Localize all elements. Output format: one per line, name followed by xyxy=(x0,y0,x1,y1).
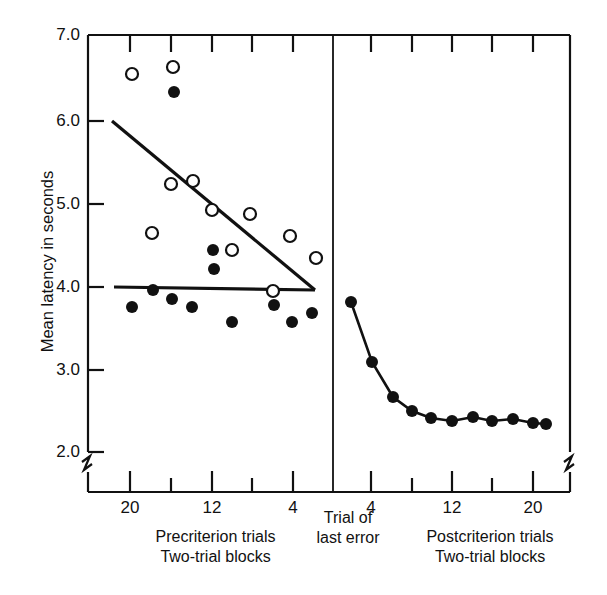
filled-circle-point xyxy=(147,284,159,296)
open-circle-point xyxy=(126,68,138,80)
open-circle-series xyxy=(126,61,322,297)
open-circle-point xyxy=(267,285,279,297)
open-circle-point xyxy=(310,252,322,264)
open-circle-point xyxy=(146,227,158,239)
open-circle-point xyxy=(165,178,177,190)
y-tick-label-7: 7.0 xyxy=(20,25,80,45)
open-circle-point xyxy=(167,61,179,73)
top-axis-ticks xyxy=(130,35,533,52)
caption-divider-line1: Trial of xyxy=(298,508,398,528)
caption-divider-line2: last error xyxy=(298,528,398,548)
filled-circle-series xyxy=(126,86,318,328)
filled-circle-point xyxy=(286,316,298,328)
filled-circle-point xyxy=(166,293,178,305)
open-circle-point xyxy=(187,175,199,187)
postcriterion-point xyxy=(425,412,437,424)
caption-trial-of-last-error: Trial of last error xyxy=(298,508,398,549)
caption-precriterion-line2: Two-trial blocks xyxy=(118,547,313,567)
postcriterion-point xyxy=(467,411,479,423)
y-tick-label-5: 5.0 xyxy=(20,194,80,214)
postcriterion-point xyxy=(486,415,498,427)
postcriterion-point xyxy=(527,417,539,429)
filled-circle-point xyxy=(226,316,238,328)
y-tick-label-4: 4.0 xyxy=(20,277,80,297)
open-circle-point xyxy=(206,204,218,216)
x-tick-label-right-12: 12 xyxy=(428,498,476,518)
x-tick-label-left-12: 12 xyxy=(188,498,236,518)
open-circle-point xyxy=(226,244,238,256)
y-tick-label-3: 3.0 xyxy=(20,360,80,380)
open-circle-point xyxy=(284,230,296,242)
right-axis-break-zigzag xyxy=(564,456,574,470)
caption-postcriterion-line1: Postcriterion trials xyxy=(390,527,590,547)
x-tick-label-right-20: 20 xyxy=(509,498,557,518)
postcriterion-point xyxy=(366,356,378,368)
open-circle-point xyxy=(244,208,256,220)
postcriterion-point xyxy=(387,391,399,403)
bottom-axis-ticks xyxy=(130,471,533,492)
filled-circle-point xyxy=(207,244,219,256)
y-axis-ticks xyxy=(88,121,104,452)
filled-circle-point xyxy=(168,86,180,98)
postcriterion-point xyxy=(446,415,458,427)
x-tick-label-left-20: 20 xyxy=(106,498,154,518)
y-axis-break-zigzag xyxy=(82,456,92,470)
filled-circle-regression-line xyxy=(114,287,315,290)
caption-precriterion: Precriterion trials Two-trial blocks xyxy=(118,527,313,568)
caption-postcriterion-line2: Two-trial blocks xyxy=(390,547,590,567)
filled-circle-point xyxy=(186,301,198,313)
filled-circle-point xyxy=(268,299,280,311)
y-tick-label-2: 2.0 xyxy=(20,442,80,462)
postcriterion-point xyxy=(507,413,519,425)
postcriterion-point-series xyxy=(345,296,552,430)
figure-container: Mean latency in seconds 7.0 6.0 5.0 4.0 … xyxy=(0,0,607,595)
y-tick-label-6: 6.0 xyxy=(20,111,80,131)
y-axis-title: Mean latency in seconds xyxy=(38,147,57,377)
axis-break-marks xyxy=(82,456,574,470)
caption-precriterion-line1: Precriterion trials xyxy=(118,527,313,547)
plot-frame xyxy=(88,35,570,492)
postcriterion-curve-line xyxy=(351,302,546,424)
postcriterion-point xyxy=(406,405,418,417)
filled-circle-point xyxy=(208,263,220,275)
postcriterion-point xyxy=(345,296,357,308)
filled-circle-point xyxy=(306,307,318,319)
caption-postcriterion: Postcriterion trials Two-trial blocks xyxy=(390,527,590,568)
filled-circle-point xyxy=(126,301,138,313)
postcriterion-point xyxy=(540,418,552,430)
